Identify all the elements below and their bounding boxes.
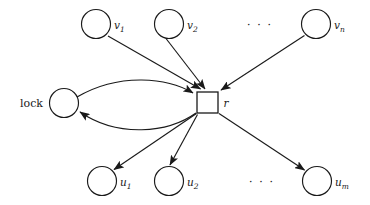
label-u1: u1 [120, 176, 132, 191]
node-v1[interactable] [82, 10, 111, 39]
label-v1: v1 [114, 19, 125, 34]
node-u1[interactable] [88, 167, 117, 196]
top-ellipsis: · · · [247, 19, 272, 32]
node-u2[interactable] [155, 167, 184, 196]
edge-resource-to-u1 [114, 114, 197, 170]
node-v2[interactable] [155, 10, 184, 39]
label-vn-sub: n [340, 25, 345, 34]
label-um-sub: m [342, 182, 349, 191]
label-resource: r [224, 97, 230, 109]
label-v2-sub: 2 [192, 25, 198, 34]
label-v2: v2 [187, 19, 198, 34]
label-u2: u2 [187, 176, 199, 191]
node-vn[interactable] [302, 10, 331, 39]
label-vn: vn [334, 19, 345, 34]
label-u2-sub: 2 [193, 182, 199, 191]
lock-resource-diagram: lock r v1 v2 vn u1 u2 um · · · · · · [0, 0, 370, 205]
edge-lock-to-resource [77, 80, 193, 97]
bottom-ellipsis: · · · [249, 176, 274, 189]
graph-canvas: lock r v1 v2 vn u1 u2 um · · · · · · [0, 0, 370, 205]
label-u1-sub: 1 [127, 182, 132, 191]
edge-vn-to-resource [221, 36, 305, 91]
label-lock: lock [20, 97, 43, 110]
node-resource[interactable] [197, 92, 218, 113]
edge-v2-to-resource [166, 39, 205, 90]
label-um: um [335, 176, 349, 191]
label-v1-sub: 1 [120, 25, 125, 34]
node-um[interactable] [303, 167, 332, 196]
edge-resource-to-um [219, 114, 305, 171]
edge-resource-to-lock [80, 112, 196, 130]
node-lock[interactable] [50, 89, 79, 118]
